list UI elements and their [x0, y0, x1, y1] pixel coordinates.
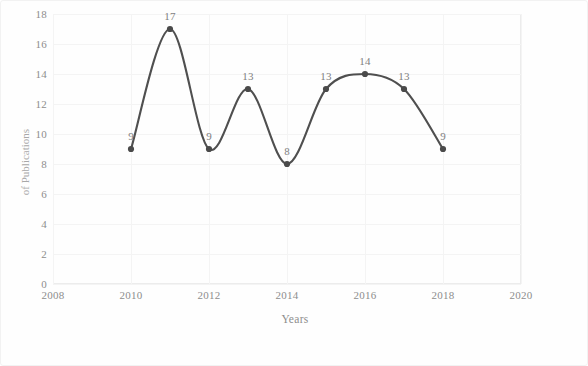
gridline-vertical: [209, 14, 210, 284]
x-axis-tick-label: 2014: [257, 289, 317, 301]
x-axis-tick-label: 2020: [491, 289, 551, 301]
y-axis-title: of Publications: [19, 102, 31, 222]
data-point-label: 13: [398, 70, 409, 82]
gridline-vertical: [521, 14, 522, 284]
data-point-label: 13: [320, 70, 331, 82]
x-axis-tick-label: 2018: [413, 289, 473, 301]
data-point-label: 9: [440, 130, 446, 142]
gridline-horizontal: [53, 284, 521, 285]
chart-canvas: 024681012141618 200820102012201420162018…: [0, 0, 588, 366]
y-axis-tick-label: 2: [5, 248, 47, 260]
x-axis-tick-label: 2010: [101, 289, 161, 301]
data-point-label: 8: [284, 145, 290, 157]
x-axis-tick-label: 2008: [23, 289, 83, 301]
y-axis-tick-label: 16: [5, 38, 47, 50]
data-point-label: 14: [359, 55, 370, 67]
data-point-label: 13: [242, 70, 253, 82]
x-axis-title: Years: [1, 313, 588, 325]
x-axis-tick-label: 2012: [179, 289, 239, 301]
data-point-label: 17: [164, 10, 175, 22]
y-axis-tick-label: 18: [5, 8, 47, 20]
gridline-vertical: [443, 14, 444, 284]
data-point-label: 9: [206, 130, 212, 142]
x-axis-tick-label: 2016: [335, 289, 395, 301]
gridline-vertical: [53, 14, 54, 284]
data-point-label: 9: [128, 130, 134, 142]
y-axis-tick-label: 14: [5, 68, 47, 80]
gridline-vertical: [131, 14, 132, 284]
